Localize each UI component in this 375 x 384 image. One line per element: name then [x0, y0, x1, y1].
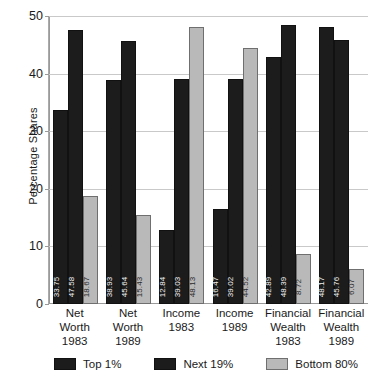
- x-tick-label: Income1989: [208, 306, 261, 348]
- x-tick-label-line: 1989: [315, 334, 368, 348]
- legend-label: Bottom 80%: [295, 358, 358, 370]
- x-tick-label-line: Net: [48, 306, 101, 320]
- legend-item[interactable]: Top 1%: [54, 358, 121, 370]
- bar: 39.02: [228, 79, 243, 304]
- legend-item[interactable]: Bottom 80%: [266, 358, 358, 370]
- x-tick-label-line: 1989: [208, 320, 261, 334]
- bar: 39.03: [174, 79, 189, 304]
- x-tick-label-line: Worth: [48, 320, 101, 334]
- x-tick-label-line: Net: [101, 306, 154, 320]
- bar-value-label: 38.93: [106, 277, 114, 298]
- bar-group: 48.1745.766.07: [315, 16, 368, 304]
- x-tick-label-line: Wealth: [315, 320, 368, 334]
- x-tick-label: FinancialWealth1989: [315, 306, 368, 348]
- y-axis-title: Percentage Shares: [27, 71, 39, 241]
- x-axis-labels: NetWorth1983NetWorth1989Income1983Income…: [48, 306, 368, 348]
- bar: 8.72: [296, 254, 311, 304]
- bar-value-label: 44.52: [242, 277, 250, 298]
- chart-figure: Percentage Shares 01020304050 33.7547.58…: [0, 0, 375, 384]
- y-tick-label: 30: [29, 125, 43, 138]
- bar-value-label: 33.75: [53, 277, 61, 298]
- x-tick-label: FinancialWealth1983: [261, 306, 314, 348]
- bar-value-label: 39.02: [227, 277, 235, 298]
- bar: 15.43: [136, 215, 151, 304]
- legend-swatch: [154, 358, 176, 370]
- y-tick-label: 40: [29, 67, 43, 80]
- bar-value-label: 45.76: [333, 277, 341, 298]
- bar-value-label: 6.07: [348, 279, 356, 295]
- legend-swatch: [54, 358, 76, 370]
- legend-label: Next 19%: [183, 358, 233, 370]
- bar: 33.75: [53, 110, 68, 304]
- x-tick-label-line: Financial: [261, 306, 314, 320]
- bar-value-label: 48.39: [280, 277, 288, 298]
- bar-value-label: 15.43: [136, 277, 144, 298]
- bar-value-label: 18.67: [83, 277, 91, 298]
- bar: 42.89: [266, 57, 281, 304]
- y-tick-label: 50: [29, 10, 43, 23]
- bar: 48.13: [189, 27, 204, 304]
- plot-area: 01020304050 33.7547.5818.6738.9345.6415.…: [48, 16, 368, 304]
- bar: 48.39: [281, 25, 296, 304]
- bar-value-label: 45.64: [121, 277, 129, 298]
- bar: 6.07: [349, 269, 364, 304]
- bar-value-label: 12.84: [159, 277, 167, 298]
- bar-value-label: 39.03: [174, 277, 182, 298]
- bar-value-label: 47.58: [68, 277, 76, 298]
- bar: 44.52: [243, 48, 258, 304]
- bar-group: 33.7547.5818.67: [49, 16, 102, 304]
- legend-swatch: [266, 358, 288, 370]
- bar-group: 42.8948.398.72: [262, 16, 315, 304]
- bar-groups: 33.7547.5818.6738.9345.6415.4312.8439.03…: [49, 16, 368, 304]
- bar-value-label: 42.89: [265, 277, 273, 298]
- x-tick-label-line: 1983: [261, 334, 314, 348]
- bar-group: 38.9345.6415.43: [102, 16, 155, 304]
- x-tick-label-line: Financial: [315, 306, 368, 320]
- bar-group: 12.8439.0348.13: [155, 16, 208, 304]
- x-tick-label: NetWorth1983: [48, 306, 101, 348]
- x-tick-label-line: 1983: [48, 334, 101, 348]
- bar: 45.64: [121, 41, 136, 304]
- x-tick-label: Income1983: [155, 306, 208, 348]
- x-tick-label: NetWorth1989: [101, 306, 154, 348]
- x-tick-label-line: Wealth: [261, 320, 314, 334]
- legend-label: Top 1%: [83, 358, 121, 370]
- bar: 47.58: [68, 30, 83, 304]
- x-tick-label-line: Worth: [101, 320, 154, 334]
- bar-value-label: 8.72: [295, 279, 303, 295]
- x-tick-label-line: 1989: [101, 334, 154, 348]
- y-tick-label: 0: [36, 298, 43, 311]
- bar: 45.76: [334, 40, 349, 304]
- chart-legend: Top 1%Next 19%Bottom 80%: [48, 358, 368, 370]
- legend-item[interactable]: Next 19%: [154, 358, 233, 370]
- bar: 38.93: [106, 80, 121, 304]
- bar-value-label: 16.47: [212, 277, 220, 298]
- bar: 18.67: [83, 196, 98, 304]
- bar: 48.17: [319, 27, 334, 304]
- bar-value-label: 48.13: [189, 277, 197, 298]
- y-tick-label: 20: [29, 183, 43, 196]
- x-tick-label-line: Income: [155, 306, 208, 320]
- bar-group: 16.4739.0244.52: [209, 16, 262, 304]
- bar-value-label: 48.17: [318, 277, 326, 298]
- y-tick-label: 10: [29, 240, 43, 253]
- x-tick-label-line: 1983: [155, 320, 208, 334]
- y-tick-mark: [45, 304, 49, 305]
- x-tick-label-line: Income: [208, 306, 261, 320]
